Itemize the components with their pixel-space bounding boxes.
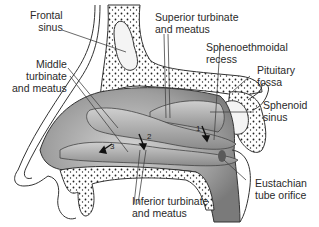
label-sphenoid-sinus: Sphenoid sinus <box>263 99 307 123</box>
label-pituitary-fossa: Pituitary fossa <box>257 64 295 88</box>
label-frontal-sinus: Frontal sinus <box>30 9 63 33</box>
label-sphenoethmoidal-recess: Sphenoethmoidal recess <box>206 41 288 65</box>
label-middle-turbinate: Middle turbinate and meatus <box>12 58 67 94</box>
arrow-number-2: 2 <box>147 132 151 141</box>
label-superior-turbinate: Superior turbinate and meatus <box>155 11 238 35</box>
arrow-number-3: 3 <box>110 142 114 151</box>
nasal-cavity-diagram: 1 2 3 Frontal sinus Superior turbinate a… <box>0 0 319 227</box>
label-eustachian-tube: Eustachian tube orifice <box>255 177 307 201</box>
label-inferior-turbinate: Inferior turbinate and meatus <box>132 195 208 219</box>
arrow-number-1: 1 <box>196 124 200 133</box>
